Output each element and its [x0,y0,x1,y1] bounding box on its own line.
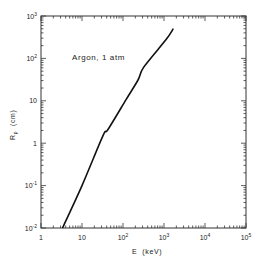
y-tick-label: 1 [33,140,37,147]
x-tick-label: 103 [159,232,170,241]
y-tick-label: 103 [26,11,37,20]
y-axis-label-unit: (cm) [9,110,17,126]
y-tick-label: 10 [29,97,37,104]
y-axis-label-subscript: p [12,131,18,134]
y-tick-label: 102 [26,53,37,62]
range-energy-chart: 110102103104105 10-210-1110102103 Argon,… [0,0,267,265]
x-tick-label: 104 [200,232,211,241]
axis-ticks [41,16,246,228]
x-tick-label: 1 [39,234,43,241]
plot-border [41,16,246,228]
y-axis-label: Rp(cm) [9,110,18,140]
y-tick-labels: 10-210-1110102103 [25,11,37,232]
y-tick-label: 10-2 [25,223,37,232]
x-axis-label: E (keV) [132,248,162,256]
plot-frame [41,16,246,228]
y-tick-label: 10-1 [25,180,37,189]
annotation-argon: Argon, 1 atm [72,53,125,62]
x-tick-label: 102 [118,232,129,241]
x-tick-label: 10 [78,234,86,241]
x-tick-label: 105 [241,232,252,241]
x-tick-labels: 110102103104105 [39,232,251,241]
svg-text:Rp(cm): Rp(cm) [9,110,18,140]
